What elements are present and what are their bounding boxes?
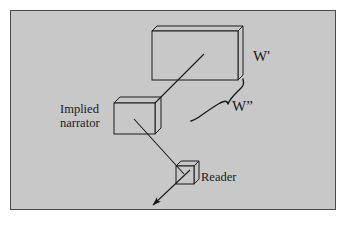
w-prime-box bbox=[152, 26, 243, 80]
implied-narrator-box bbox=[114, 97, 161, 134]
w-prime-box-top-face bbox=[152, 26, 243, 31]
implied-narrator-box-top-face bbox=[114, 97, 161, 103]
figure-page: W' W” Implied narrator Reader bbox=[0, 0, 348, 229]
w-prime-label: W' bbox=[253, 48, 270, 64]
w-double-prime-label: W” bbox=[232, 98, 253, 114]
reader-outgoing-arrow bbox=[153, 170, 190, 205]
implied-narrator-label-line1: Implied bbox=[60, 102, 100, 116]
w-prime-box-front-face bbox=[152, 31, 238, 80]
w-prime-box-right-face bbox=[238, 26, 243, 80]
reader-label: Reader bbox=[201, 170, 237, 184]
implied-narrator-box-front-face bbox=[114, 103, 155, 134]
implied-narrator-label-line2: narrator bbox=[60, 116, 100, 130]
diagram-canvas: W' W” Implied narrator Reader bbox=[0, 0, 348, 229]
